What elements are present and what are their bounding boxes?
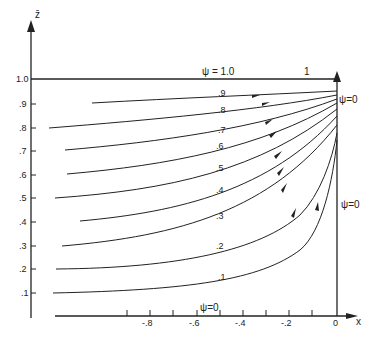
arrow-icon [269, 131, 277, 138]
z-ticks: 1.0 .9 .8 .7 .6 .5 .4 .3 .2 .1 [16, 74, 36, 298]
z-tick-label: .2 [19, 264, 27, 274]
z-tick-label: .7 [19, 146, 27, 156]
streamline-label: .2 [216, 241, 224, 251]
z-tick-label: .3 [19, 241, 27, 251]
streamline-label: .3 [216, 211, 224, 221]
top-boundary: ψ = 1.0 1 [31, 66, 337, 79]
arrow-icon [291, 208, 296, 218]
z-tick-label: .5 [19, 193, 27, 203]
streamline-0.3 [62, 125, 337, 246]
x-tick-label: -.8 [142, 318, 153, 328]
bottom-label: ψ=0 [200, 302, 219, 313]
x-axis-label: x [356, 316, 361, 327]
streamline-label: .9 [218, 88, 226, 98]
stagnation-arrow-icon [333, 71, 341, 82]
arrow-icon [274, 151, 282, 159]
z-axis-label: z̄ [35, 9, 40, 20]
streamline-label: .1 [218, 272, 226, 282]
x-axis: x -.8 -.6 -.4 -.2 0 ψ=0 [55, 302, 361, 328]
x-tick-label: -.4 [235, 318, 246, 328]
x-tick-label: 0 [333, 318, 338, 328]
z-tick-label: .6 [19, 170, 27, 180]
z-axis-arrow-icon [27, 20, 35, 32]
right-boundary: ψ=0 ψ=0 [333, 71, 360, 316]
arrow-icon [315, 202, 319, 211]
streamline-label: .5 [216, 163, 224, 173]
x-tick-label: -.6 [189, 318, 200, 328]
right-mid-label: ψ=0 [341, 199, 360, 210]
streamline-diagram: z̄ 1.0 .9 .8 .7 .6 .5 .4 .3 .2 .1 ψ = 1.… [0, 0, 382, 346]
z-tick-label: .9 [19, 99, 27, 109]
streamline-label: .6 [216, 141, 224, 151]
x-tick-label: -.2 [281, 318, 292, 328]
top-boundary-label: ψ = 1.0 [202, 66, 235, 77]
z-tick-label: .4 [19, 217, 27, 227]
streamlines [49, 91, 337, 293]
z-tick-label: .1 [21, 288, 29, 298]
arrow-icon [252, 95, 260, 98]
streamline-0.1 [53, 140, 337, 293]
streamline-label: .7 [218, 125, 226, 135]
arrow-icon [281, 183, 287, 193]
top-marker-label: 1 [304, 66, 310, 77]
right-top-label: ψ=0 [339, 94, 358, 105]
z-tick-label: .8 [19, 123, 27, 133]
streamline-label: .8 [218, 105, 226, 115]
streamline-0.8 [49, 95, 337, 128]
streamline-0.7 [65, 99, 337, 150]
streamline-label: .4 [216, 185, 224, 195]
z-tick-label: 1.0 [16, 74, 29, 84]
z-axis: z̄ [27, 9, 40, 318]
arrow-icon [277, 167, 284, 176]
